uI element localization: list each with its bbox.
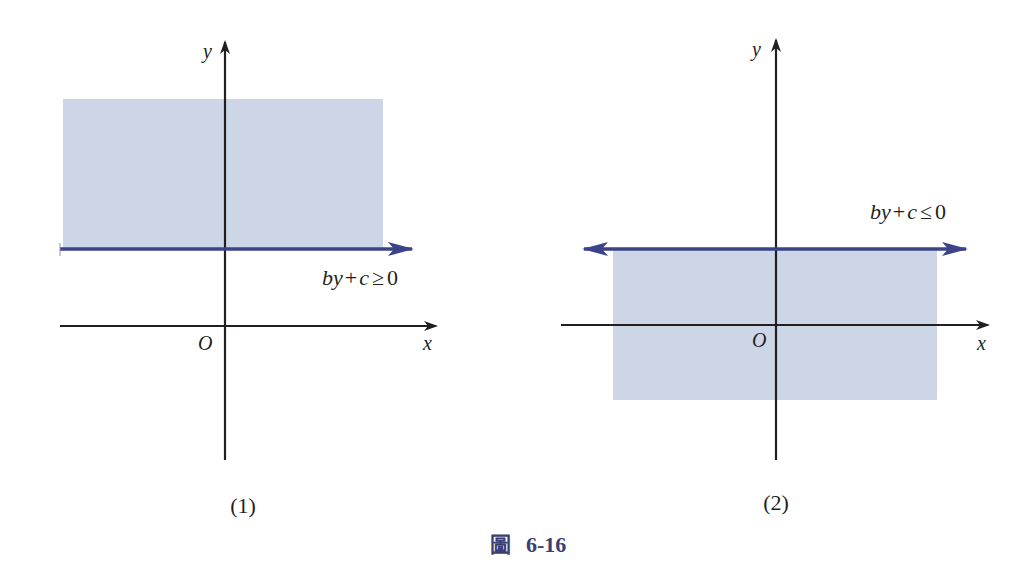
y-axis-label: y [750, 38, 761, 61]
shaded-region [63, 99, 383, 249]
figure-canvas: y x O by+c≥0 (1) y x O by+c≤0 (2) 圖 6-16 [0, 0, 1032, 583]
panel-label: (1) [230, 493, 256, 518]
x-axis-label: x [976, 332, 986, 354]
caption-number: 6-16 [526, 532, 566, 557]
panel-1: y x O by+c≥0 (1) [60, 40, 436, 518]
origin-label: O [198, 332, 212, 354]
caption-prefix: 圖 [490, 533, 511, 557]
x-axis-label: x [422, 332, 432, 354]
inequality-label: by+c≤0 [870, 199, 946, 224]
panel-label: (2) [763, 490, 789, 515]
inequality-label: by+c≥0 [322, 265, 398, 290]
figure-caption: 圖 6-16 [490, 532, 567, 557]
origin-label: O [752, 329, 766, 351]
panel-2: y x O by+c≤0 (2) [561, 38, 988, 515]
y-axis-label: y [201, 40, 212, 63]
